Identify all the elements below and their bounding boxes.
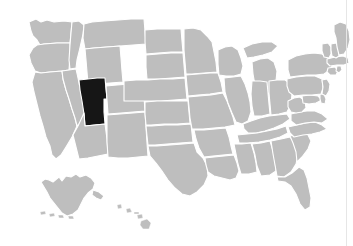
aleutian-islet-1 bbox=[40, 211, 46, 215]
state-louisiana[interactable] bbox=[205, 155, 239, 180]
state-oklahoma[interactable] bbox=[146, 124, 193, 145]
states-group bbox=[29, 19, 350, 229]
alaska-panhandle[interactable] bbox=[92, 190, 104, 200]
hawaii-island-maui[interactable] bbox=[137, 214, 143, 219]
state-washington[interactable] bbox=[29, 19, 72, 45]
state-indiana[interactable] bbox=[251, 81, 270, 116]
state-iowa[interactable] bbox=[186, 73, 223, 96]
aleutian-islet-4 bbox=[68, 216, 74, 219]
state-nebraska[interactable] bbox=[124, 78, 187, 101]
aleutian-islet-2 bbox=[49, 213, 55, 217]
state-new-jersey[interactable] bbox=[322, 79, 330, 96]
us-map-svg bbox=[0, 0, 353, 246]
state-montana[interactable] bbox=[83, 19, 146, 49]
aleutian-islet-3 bbox=[58, 215, 64, 218]
hawaii-inset[interactable] bbox=[117, 204, 151, 229]
alaska-inset[interactable] bbox=[40, 174, 104, 219]
state-texas[interactable] bbox=[148, 143, 208, 196]
state-north-carolina[interactable] bbox=[288, 122, 327, 137]
state-maryland[interactable] bbox=[302, 95, 322, 104]
state-arkansas[interactable] bbox=[194, 128, 233, 157]
state-pennsylvania[interactable] bbox=[287, 76, 323, 96]
state-new-mexico[interactable] bbox=[107, 112, 148, 158]
state-alaska[interactable] bbox=[41, 174, 95, 216]
hawaii-island-big-island[interactable] bbox=[140, 219, 151, 229]
hawaii-island-molokai[interactable] bbox=[134, 212, 139, 214]
hawaii-island-oahu[interactable] bbox=[126, 208, 132, 213]
state-wisconsin[interactable] bbox=[218, 46, 243, 76]
state-south-dakota[interactable] bbox=[146, 53, 185, 79]
state-idaho[interactable] bbox=[69, 21, 84, 69]
right-edge-rule bbox=[346, 0, 347, 246]
us-map-figure bbox=[0, 0, 353, 246]
state-rhode-island[interactable] bbox=[336, 66, 342, 73]
hawaii-island-kauai[interactable] bbox=[117, 204, 122, 209]
state-kansas[interactable] bbox=[145, 101, 190, 125]
state-north-dakota[interactable] bbox=[145, 29, 183, 54]
state-minnesota[interactable] bbox=[184, 28, 217, 74]
state-oregon[interactable] bbox=[29, 43, 70, 73]
state-vermont[interactable] bbox=[322, 43, 331, 58]
